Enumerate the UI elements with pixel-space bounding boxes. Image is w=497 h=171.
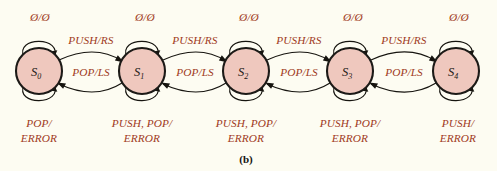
loop-label-bottom-s1-line1: PUSH, POP/	[111, 117, 173, 129]
state-node-s4[interactable]	[433, 48, 479, 94]
loop-label-top-s4: Ø/Ø	[448, 11, 469, 23]
loop-label-bottom-s2-line1: PUSH, POP/	[215, 117, 277, 129]
transition-label-s0-s1: PUSH/RS	[67, 34, 114, 46]
state-label-s3-sub: 3	[347, 72, 352, 81]
bottom-loop-labels-group: POP/ ERROR PUSH, POP/ ERROR PUSH, POP/ E…	[20, 117, 476, 144]
transition-label-s3-s4: PUSH/RS	[380, 34, 427, 46]
loop-label-bottom-s0-line1: POP/	[25, 117, 52, 129]
state-label-s4-sub: 4	[454, 72, 458, 81]
state-node-s3[interactable]	[327, 48, 373, 94]
loop-label-top-s2: Ø/Ø	[238, 11, 259, 23]
loop-label-bottom-s4-line2: ERROR	[439, 132, 476, 144]
loop-label-bottom-s1-line2: ERROR	[123, 132, 160, 144]
edge-s0-s1	[59, 52, 122, 61]
edge-s2-s3	[267, 52, 330, 61]
edge-s1-s0	[59, 83, 122, 92]
state-label-s1-sub: 1	[140, 72, 144, 81]
state-node-s2[interactable]	[223, 48, 269, 94]
transition-label-s2-s3: PUSH/RS	[275, 34, 322, 46]
loop-label-bottom-s4-line1: PUSH/	[441, 117, 475, 129]
edge-s3-s4	[371, 52, 436, 61]
fsm-canvas: S0 S1 S2 S3 S4 Ø/Ø Ø/Ø Ø/Ø Ø/Ø Ø/Ø PO	[0, 0, 497, 171]
transition-label-s3-s2: POP/LS	[279, 66, 318, 78]
loop-label-bottom-s3-line2: ERROR	[331, 132, 368, 144]
state-node-s1[interactable]	[119, 48, 165, 94]
state-label-s0-sub: 0	[37, 72, 41, 81]
loop-label-top-s1: Ø/Ø	[134, 11, 155, 23]
transition-label-s4-s3: POP/LS	[384, 66, 423, 78]
figure-caption: (b)	[239, 153, 253, 166]
transition-label-s1-s0: POP/LS	[71, 66, 110, 78]
top-loop-labels-group: Ø/Ø Ø/Ø Ø/Ø Ø/Ø Ø/Ø	[29, 11, 469, 23]
loop-label-top-s3: Ø/Ø	[342, 11, 363, 23]
edge-s4-s3	[371, 83, 436, 92]
edge-s3-s2	[267, 83, 330, 92]
loop-label-top-s0: Ø/Ø	[29, 11, 50, 23]
loop-label-bottom-s0-line2: ERROR	[20, 132, 57, 144]
edge-s1-s2	[163, 52, 226, 61]
loop-label-bottom-s2-line2: ERROR	[227, 132, 264, 144]
loop-label-bottom-s3-line1: PUSH, POP/	[319, 117, 381, 129]
state-machine-diagram: S0 S1 S2 S3 S4 Ø/Ø Ø/Ø Ø/Ø Ø/Ø Ø/Ø PO	[0, 0, 497, 171]
edge-s2-s1	[163, 83, 226, 92]
transition-label-s1-s2: PUSH/RS	[171, 34, 218, 46]
transition-label-s2-s1: POP/LS	[175, 66, 214, 78]
state-node-s0[interactable]	[16, 48, 62, 94]
state-label-s2-sub: 2	[244, 72, 248, 81]
